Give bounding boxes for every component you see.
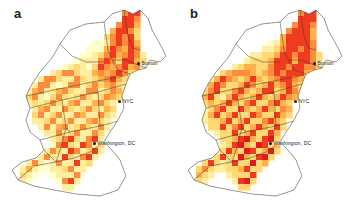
- city-marker-boston[interactable]: Boston: [313, 61, 334, 66]
- choropleth-map-b[interactable]: BostonNYCWashington, DC: [176, 0, 352, 213]
- city-dot-icon: [93, 142, 96, 145]
- city-marker-boston[interactable]: Boston: [137, 61, 158, 66]
- city-label: NYC: [299, 99, 310, 104]
- panel-label-a: a: [14, 7, 21, 20]
- city-label: Boston: [142, 61, 158, 66]
- city-dot-icon: [137, 62, 140, 65]
- figure-container: a BostonNYCWashington, DC b BostonNYCWas…: [0, 0, 353, 213]
- city-dot-icon: [313, 62, 316, 65]
- city-dot-icon: [118, 100, 121, 103]
- choropleth-map-a[interactable]: BostonNYCWashington, DC: [0, 0, 176, 213]
- map-svg-a: [0, 0, 176, 213]
- city-marker-nyc[interactable]: NYC: [294, 99, 309, 104]
- city-marker-washington-dc[interactable]: Washington, DC: [269, 141, 311, 146]
- city-label: Boston: [318, 61, 334, 66]
- city-dot-icon: [294, 100, 297, 103]
- panel-a: a BostonNYCWashington, DC: [0, 0, 176, 213]
- city-dot-icon: [269, 142, 272, 145]
- panel-b: b BostonNYCWashington, DC: [176, 0, 352, 213]
- city-marker-washington-dc[interactable]: Washington, DC: [93, 141, 135, 146]
- city-label: NYC: [123, 99, 134, 104]
- city-label: Washington, DC: [274, 141, 312, 146]
- city-label: Washington, DC: [98, 141, 136, 146]
- map-svg-b: [176, 0, 352, 213]
- panel-label-b: b: [190, 7, 198, 20]
- city-marker-nyc[interactable]: NYC: [118, 99, 133, 104]
